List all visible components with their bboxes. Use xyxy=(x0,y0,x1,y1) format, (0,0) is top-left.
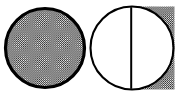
figure-canvas: Two circles with halftone shading Line-a… xyxy=(0,0,178,98)
figure-svg xyxy=(0,0,178,98)
